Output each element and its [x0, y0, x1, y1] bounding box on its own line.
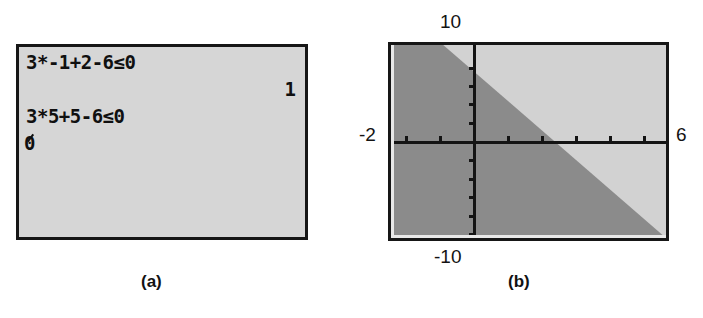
- caption-panel-b: (b): [508, 272, 530, 292]
- y-axis-tick: [469, 103, 475, 106]
- y-axis-tick: [469, 233, 475, 236]
- x-axis-tick: [507, 136, 510, 141]
- y-axis-tick: [469, 67, 475, 70]
- y-axis-tick: [469, 159, 475, 162]
- x-axis: [391, 141, 666, 144]
- graph-window-panel: [388, 42, 669, 241]
- x-axis-tick: [575, 136, 578, 141]
- y-axis-tick: [469, 215, 475, 218]
- calculator-screen-panel: 3*-1+2-6≤0 1 3*5+5-6≤0 0: [16, 44, 308, 240]
- calc-result-2: 0: [24, 130, 35, 157]
- x-axis-max-label: 6: [676, 124, 687, 146]
- y-axis-tick: [469, 196, 475, 199]
- calc-expression-2: 3*5+5-6≤0: [26, 103, 124, 130]
- calc-result-1: 1: [285, 76, 296, 103]
- x-axis-tick: [541, 136, 544, 141]
- calc-line-1: 3*-1+2-6≤0: [26, 49, 298, 76]
- y-axis-min-label: -10: [434, 246, 461, 268]
- y-axis-tick: [469, 178, 475, 181]
- calc-result-row-2: 0: [26, 130, 298, 157]
- calc-expression-1: 3*-1+2-6≤0: [26, 49, 135, 76]
- caption-panel-a: (a): [141, 272, 162, 292]
- y-axis-max-label: 10: [440, 11, 461, 33]
- calculator-screen: 3*-1+2-6≤0 1 3*5+5-6≤0 0: [19, 47, 305, 237]
- plot-area: [391, 45, 666, 238]
- y-axis-tick: [469, 122, 475, 125]
- calc-line-2: 3*5+5-6≤0: [26, 103, 298, 130]
- y-axis-tick: [469, 85, 475, 88]
- calc-result-row-1: 1: [26, 76, 298, 103]
- x-axis-min-label: -2: [359, 124, 376, 146]
- x-axis-tick: [439, 136, 442, 141]
- x-axis-tick: [609, 136, 612, 141]
- x-axis-tick: [643, 136, 646, 141]
- x-axis-tick: [405, 136, 408, 141]
- y-axis: [473, 45, 476, 238]
